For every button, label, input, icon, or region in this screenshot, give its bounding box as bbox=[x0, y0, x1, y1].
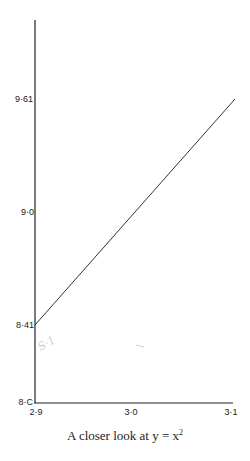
pencil-mark bbox=[136, 345, 144, 347]
y-tick-label-9-0: 9·0 bbox=[21, 207, 34, 217]
x-tick-label-3-1: 3·1 bbox=[224, 407, 237, 417]
data-line bbox=[35, 99, 235, 325]
pencil-annotation: S·1 bbox=[35, 333, 57, 353]
y-tick-label-9-61: 9·61 bbox=[15, 94, 33, 104]
x-tick-label-3-0: 3·0 bbox=[124, 407, 137, 417]
caption-exponent: 2 bbox=[179, 428, 183, 437]
chart: 9·61 9·0 8·41 8·C 2·9 3·0 3·1 S·1 bbox=[0, 0, 250, 461]
chart-caption: A closer look at y = x2 bbox=[0, 428, 250, 444]
x-tick-label-2-9: 2·9 bbox=[29, 407, 42, 417]
caption-text: A closer look at y = x bbox=[67, 428, 179, 443]
y-tick-label-8-0: 8·C bbox=[18, 397, 33, 407]
y-tick-label-8-41: 8·41 bbox=[16, 320, 34, 330]
